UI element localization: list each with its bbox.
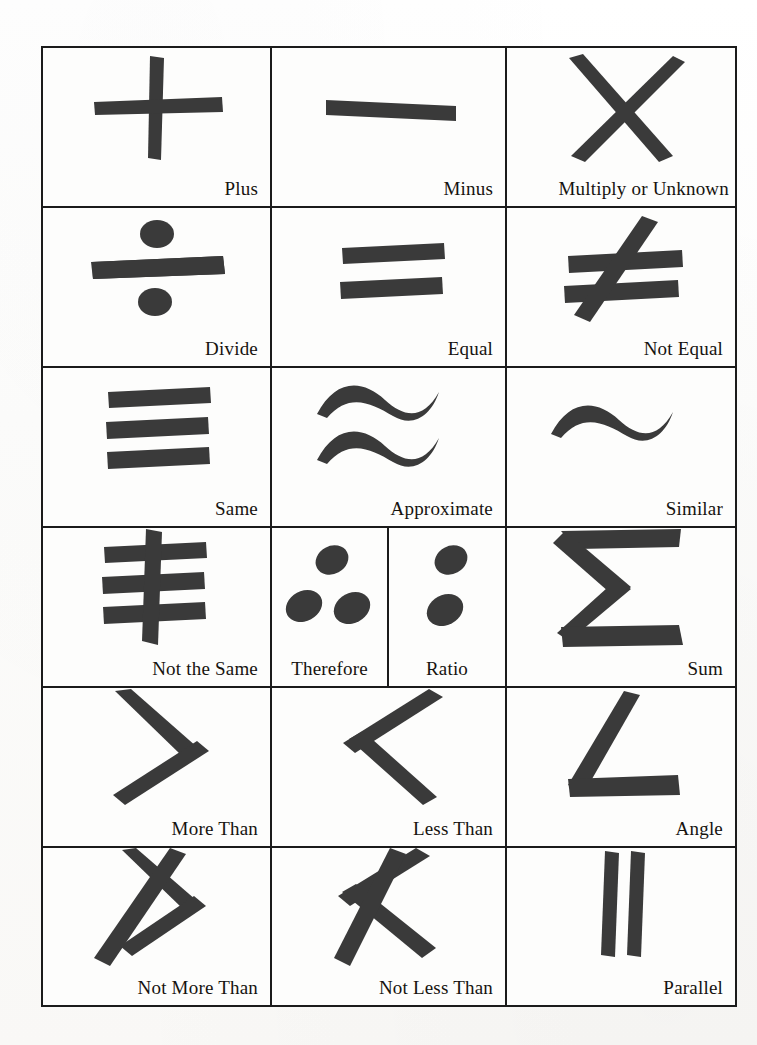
- symbol-label: Less Than: [413, 818, 493, 840]
- symbol-cell-less-than[interactable]: Less Than: [272, 688, 507, 846]
- symbol-cell-not-less-than[interactable]: Not Less Than: [272, 848, 507, 1005]
- symbol-cell-same[interactable]: Same: [43, 368, 272, 526]
- symbol-label: Ratio: [389, 658, 505, 680]
- table-row: Same Approximate Similar: [43, 368, 735, 528]
- multiply-icon: [507, 52, 735, 164]
- table-row: Divide Equal Not Equal: [43, 208, 735, 368]
- symbol-label: Approximate: [391, 498, 493, 520]
- less-than-icon: [272, 692, 505, 804]
- symbol-cell-similar[interactable]: Similar: [507, 368, 735, 526]
- similar-icon: [507, 372, 735, 484]
- divide-icon: [43, 212, 270, 324]
- not-less-than-icon: [272, 852, 505, 964]
- symbol-cell-minus[interactable]: Minus: [272, 48, 507, 206]
- more-than-icon: [43, 692, 270, 804]
- symbol-label: Not Equal: [644, 338, 723, 360]
- symbol-label: Therefore: [272, 658, 387, 680]
- symbol-cell-sum[interactable]: Sum: [507, 528, 735, 686]
- plus-icon: [43, 52, 270, 164]
- table-row: More Than Less Than Angle: [43, 688, 735, 848]
- not-the-same-icon: [43, 532, 270, 644]
- equal-icon: [272, 212, 505, 324]
- symbol-label: Divide: [205, 338, 258, 360]
- symbol-cell-multiply[interactable]: Multiply or Unknown: [507, 48, 735, 206]
- symbol-cell-not-equal[interactable]: Not Equal: [507, 208, 735, 366]
- symbol-label: Multiply or Unknown: [558, 178, 729, 200]
- symbol-cell-ratio[interactable]: Ratio: [389, 528, 507, 686]
- parallel-icon: [507, 852, 735, 964]
- table-row: Not More Than Not Less Than Parallel: [43, 848, 735, 1005]
- symbol-label: Not Less Than: [379, 977, 493, 999]
- symbol-cell-angle[interactable]: Angle: [507, 688, 735, 846]
- angle-icon: [507, 692, 735, 804]
- symbol-label: Minus: [443, 178, 493, 200]
- symbol-label: Equal: [448, 338, 493, 360]
- symbol-cell-not-more-than[interactable]: Not More Than: [43, 848, 272, 1005]
- symbol-label: Sum: [688, 658, 723, 680]
- symbol-label: Similar: [666, 498, 723, 520]
- minus-icon: [272, 52, 505, 164]
- symbol-label: Plus: [224, 178, 258, 200]
- symbol-label: Not More Than: [138, 977, 258, 999]
- symbol-cell-approximate[interactable]: Approximate: [272, 368, 507, 526]
- symbol-label: Same: [215, 498, 258, 520]
- symbol-cell-more-than[interactable]: More Than: [43, 688, 272, 846]
- symbol-cell-parallel[interactable]: Parallel: [507, 848, 735, 1005]
- not-equal-icon: [507, 212, 735, 324]
- symbol-cell-not-the-same[interactable]: Not the Same: [43, 528, 272, 686]
- approximate-icon: [272, 372, 505, 484]
- symbol-label: Not the Same: [152, 658, 258, 680]
- therefore-icon: [272, 532, 387, 644]
- symbol-cell-therefore[interactable]: Therefore: [272, 528, 389, 686]
- symbol-cell-plus[interactable]: Plus: [43, 48, 272, 206]
- symbol-cell-divide[interactable]: Divide: [43, 208, 272, 366]
- symbol-table: Plus Minus Multiply or Unknown: [41, 46, 737, 1007]
- symbol-label: Parallel: [663, 977, 723, 999]
- symbol-label: More Than: [172, 818, 258, 840]
- same-icon: [43, 372, 270, 484]
- symbol-label: Angle: [676, 818, 723, 840]
- sum-icon: [507, 532, 735, 644]
- not-more-than-icon: [43, 852, 270, 964]
- table-row: Not the Same Therefore Ratio: [43, 528, 735, 688]
- ratio-icon: [389, 532, 505, 644]
- table-row: Plus Minus Multiply or Unknown: [43, 48, 735, 208]
- symbol-cell-equal[interactable]: Equal: [272, 208, 507, 366]
